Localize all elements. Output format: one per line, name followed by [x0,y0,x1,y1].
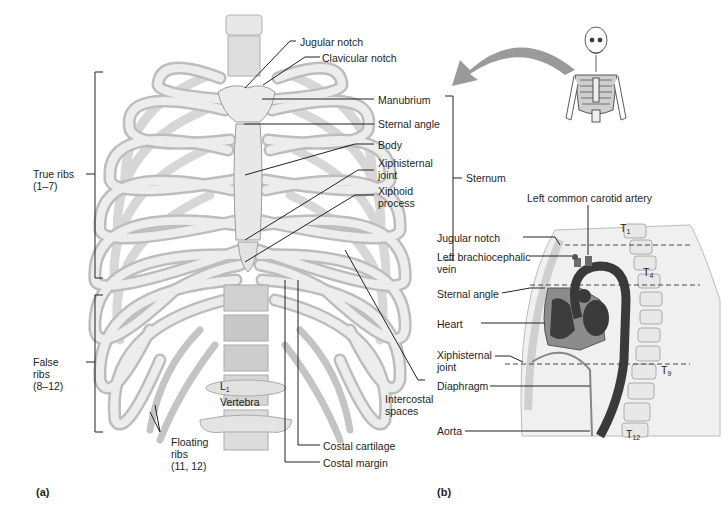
label-intercostal-spaces: Intercostalspaces [385,393,433,417]
label-sternal-angle-b: Sternal angle [437,288,499,300]
label-floating-ribs: Floatingribs(11, 12) [171,436,208,472]
label-body: Body [378,139,402,151]
label-left-common-carotid-artery: Left common carotid artery [527,192,652,204]
thoracic-cage-illustration [0,0,722,509]
label-left-brachiocephalic-vein: Left brachiocephalicvein [437,251,530,275]
label-aorta: Aorta [437,425,462,437]
curved-arrow [452,48,575,87]
label-xiphoid-process: Xiphoidprocess [378,185,415,209]
label-t9: T9 [661,364,671,380]
label-t12: T12 [626,428,640,444]
label-t1: T1 [620,222,630,238]
label-xiphisternal-joint-b: Xiphisternaljoint [437,349,492,373]
mini-skeleton-icon [566,27,626,122]
label-t4: T4 [643,266,653,282]
label-diaphragm: Diaphragm [437,380,488,392]
label-false-ribs: Falseribs(8–12) [33,356,63,392]
label-sternum: Sternum [466,172,506,184]
label-clavicular-notch: Clavicular notch [322,52,397,64]
label-l1-vertebra: L1 Vertebra [220,380,260,408]
panel-a-tag: (a) [36,486,49,498]
label-jugular-notch-a: Jugular notch [300,36,363,48]
label-sternal-angle-a: Sternal angle [378,118,440,130]
label-true-ribs: True ribs(1–7) [33,168,74,192]
label-jugular-notch-b: Jugular notch [437,232,500,244]
panel-b-tag: (b) [437,486,451,498]
label-manubrium: Manubrium [378,94,431,106]
label-costal-margin: Costal margin [323,457,388,469]
label-xiphisternal-joint-a: Xiphisternaljoint [378,157,433,181]
label-heart: Heart [437,318,463,330]
label-costal-cartilage: Costal cartilage [323,440,395,452]
